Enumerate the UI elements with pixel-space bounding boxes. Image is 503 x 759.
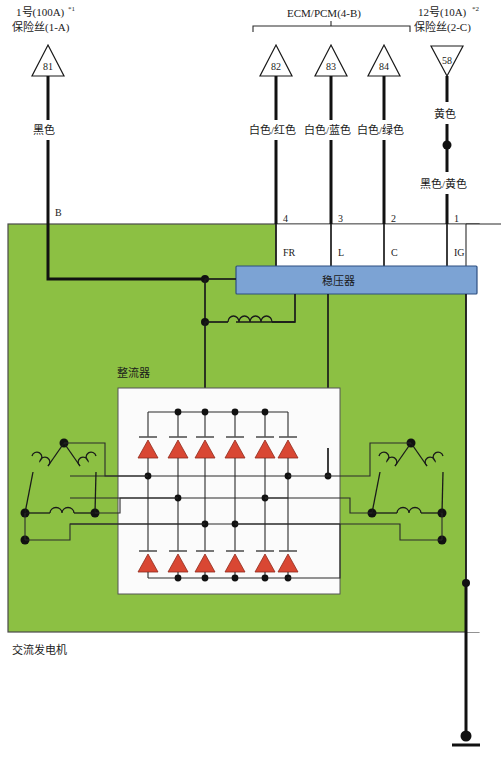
wire-color-black: 黑色 <box>33 123 55 136</box>
alternator-label: 交流发电机 <box>12 643 67 656</box>
pin-label-3: 3 <box>338 213 343 224</box>
node-label-84: 84 <box>379 61 389 72</box>
junction-bot-5 <box>262 575 269 582</box>
regulator-label: 稳压器 <box>322 274 355 287</box>
voltage-regulator[interactable] <box>236 266 477 294</box>
junction-top-2 <box>175 409 182 416</box>
wire-color-white-green: 白色/绿色 <box>357 123 404 136</box>
terminal-L-label: L <box>338 247 344 258</box>
junction-top-3 <box>202 409 209 416</box>
fuse-left-line2: 保险丝(1-A) <box>12 20 70 34</box>
ground-node-dot <box>461 731 472 742</box>
fuse-right-line2: 保险丝(2-C) <box>414 20 471 34</box>
fuse-left-line1: 1号(100A) <box>16 6 65 19</box>
fuse-left-note: *1 <box>68 5 76 13</box>
fuse-right-note: *2 <box>472 5 480 13</box>
pin-label-2: 2 <box>391 213 396 224</box>
fuse-right-line1: 12号(10A) <box>418 6 467 19</box>
ecm-label: ECM/PCM(4-B) <box>287 7 361 20</box>
node-label-83: 83 <box>326 61 336 72</box>
wire-color-black-yellow: 黑色/黄色 <box>420 177 467 190</box>
ecm-bracket <box>253 21 410 32</box>
junction-bot-3 <box>202 575 209 582</box>
pin-label-4: 4 <box>283 213 288 224</box>
wire-color-white-red: 白色/红色 <box>249 123 296 136</box>
terminal-FR-label: FR <box>283 247 296 258</box>
node-label-81: 81 <box>43 61 53 72</box>
alternator-circuit-diagram: 1号(100A) *1 保险丝(1-A) 81 黑色 B ECM/PCM(4-B… <box>0 0 503 759</box>
junction-bot-2 <box>175 575 182 582</box>
terminal-block-area <box>276 224 479 268</box>
terminal-C-label: C <box>391 247 398 258</box>
terminal-IG-label: IG <box>454 247 465 258</box>
node-label-82: 82 <box>271 61 281 72</box>
node-label-58: 58 <box>442 55 452 66</box>
pin-label-1: 1 <box>454 213 459 224</box>
terminal-B-label: B <box>55 207 62 218</box>
wire-color-yellow: 黄色 <box>434 107 456 120</box>
wire-color-white-blue: 白色/蓝色 <box>304 123 351 136</box>
junction-top-4 <box>232 409 239 416</box>
junction-top-5 <box>262 409 269 416</box>
rectifier-label: 整流器 <box>117 366 150 379</box>
junction-bot-4 <box>232 575 239 582</box>
